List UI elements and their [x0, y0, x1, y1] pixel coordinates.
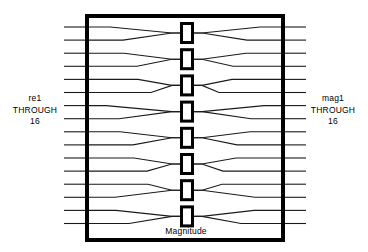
input-route-10-to-cell-5	[85, 138, 180, 145]
cell-1-to-output-route-2	[194, 33, 285, 40]
input-route-3-to-cell-2	[85, 53, 180, 59]
input-route-6-to-cell-3	[85, 85, 180, 92]
cell-5-to-output-route-10	[194, 138, 285, 145]
cell-1-to-output-route-1	[194, 27, 285, 33]
magnitude-block-diagram: re1 THROUGH 16 mag1 THROUGH 16 Magnitude	[0, 0, 368, 252]
input-wire-group	[64, 27, 85, 224]
cell-3-to-output-route-6	[194, 85, 285, 92]
cell-7-to-output-route-13	[194, 184, 285, 190]
input-routing-network	[85, 27, 180, 224]
cell-4-to-output-route-7	[194, 106, 285, 112]
cell-6-to-output-route-11	[194, 158, 285, 164]
cell-6-to-output-route-12	[194, 164, 285, 171]
magnitude-cell-7	[182, 181, 193, 200]
input-route-14-to-cell-7	[85, 190, 180, 197]
input-port-label: re1 THROUGH 16	[4, 93, 66, 128]
input-route-16-to-cell-8	[85, 216, 180, 223]
magnitude-cell-2	[182, 50, 193, 69]
cell-7-to-output-route-14	[194, 190, 285, 197]
magnitude-cell-6	[182, 155, 193, 174]
magnitude-cell-5	[182, 128, 193, 147]
magnitude-cell-4	[182, 102, 193, 121]
output-label-connector: THROUGH	[302, 105, 364, 117]
input-label-connector: THROUGH	[4, 105, 66, 117]
cell-2-to-output-route-3	[194, 53, 285, 59]
block-caption: Magnitude	[130, 226, 242, 236]
magnitude-cell-3	[182, 76, 193, 95]
input-route-4-to-cell-2	[85, 59, 180, 66]
cell-4-to-output-route-8	[194, 112, 285, 119]
input-route-13-to-cell-7	[85, 184, 180, 190]
output-label-name: mag1	[302, 93, 364, 105]
input-route-7-to-cell-4	[85, 106, 180, 112]
output-routing-network	[194, 27, 285, 224]
input-label-name: re1	[4, 93, 66, 105]
magnitude-cell-group	[182, 24, 193, 226]
input-route-15-to-cell-8	[85, 210, 180, 216]
cell-3-to-output-route-5	[194, 79, 285, 85]
output-label-last: 16	[302, 116, 364, 128]
input-route-11-to-cell-6	[85, 158, 180, 164]
cell-5-to-output-route-9	[194, 132, 285, 138]
magnitude-cell-8	[182, 207, 193, 226]
cell-8-to-output-route-16	[194, 216, 285, 223]
output-port-label: mag1 THROUGH 16	[302, 93, 364, 128]
input-route-1-to-cell-1	[85, 27, 180, 33]
input-route-8-to-cell-4	[85, 112, 180, 119]
magnitude-cell-1	[182, 24, 193, 43]
cell-2-to-output-route-4	[194, 59, 285, 66]
input-route-9-to-cell-5	[85, 132, 180, 138]
cell-8-to-output-route-15	[194, 210, 285, 216]
input-route-5-to-cell-3	[85, 79, 180, 85]
input-label-last: 16	[4, 116, 66, 128]
input-route-2-to-cell-1	[85, 33, 180, 40]
input-route-12-to-cell-6	[85, 164, 180, 171]
